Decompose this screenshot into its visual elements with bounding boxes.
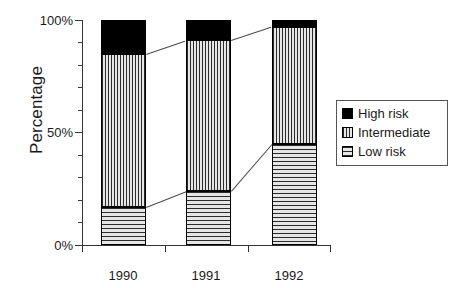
bar-1991-segment-intermediate bbox=[186, 40, 231, 191]
legend-item-high-risk: High risk bbox=[342, 104, 443, 123]
connector-intermediate-1991-1992 bbox=[231, 27, 271, 41]
x-axis-line bbox=[82, 245, 331, 246]
y-tick-label-100: 100% bbox=[40, 13, 73, 28]
y-tick-minor-70 bbox=[78, 87, 83, 88]
legend-label-intermediate: Intermediate bbox=[358, 126, 430, 139]
legend-item-intermediate: Intermediate bbox=[342, 123, 443, 142]
solid-black-swatch-icon bbox=[342, 108, 353, 119]
stacked-bar-chart-figure: Percentage 100% 50% 0% 1990 1991 1992 bbox=[0, 0, 455, 288]
bar-1990-segment-low-risk bbox=[101, 207, 146, 245]
x-tick-end bbox=[330, 245, 331, 252]
legend-label-low-risk: Low risk bbox=[358, 145, 406, 158]
chart-legend: High risk Intermediate Low risk bbox=[336, 100, 448, 166]
y-tick-minor-10 bbox=[78, 222, 83, 223]
y-tick-minor-60 bbox=[78, 110, 83, 111]
bar-1990-segment-intermediate bbox=[101, 54, 146, 207]
y-tick-minor-20 bbox=[78, 200, 83, 201]
y-tick-100 bbox=[75, 20, 83, 21]
bar-1991-segment-high-risk bbox=[186, 20, 231, 40]
bar-1991-segment-low-risk bbox=[186, 191, 231, 245]
plot-area: 100% 50% 0% 1990 1991 1992 bbox=[82, 20, 330, 245]
vertical-hatch-swatch-icon bbox=[342, 127, 353, 138]
y-axis-line bbox=[82, 20, 83, 246]
bar-1992-segment-intermediate bbox=[272, 27, 317, 144]
x-tick-sep-1 bbox=[165, 245, 166, 252]
y-tick-minor-30 bbox=[78, 177, 83, 178]
y-axis-title: Percentage bbox=[27, 25, 47, 195]
y-tick-minor-80 bbox=[78, 65, 83, 66]
x-tick-label-1990: 1990 bbox=[109, 268, 138, 283]
y-tick-minor-90 bbox=[78, 42, 83, 43]
bar-1992-segment-high-risk bbox=[272, 20, 317, 27]
y-tick-label-0: 0% bbox=[54, 238, 73, 253]
connector-low-risk-1990-1991 bbox=[146, 191, 186, 208]
connector-intermediate-1990-1991 bbox=[146, 40, 185, 54]
x-tick-start bbox=[82, 245, 83, 252]
bar-1990-segment-high-risk bbox=[101, 20, 146, 54]
x-tick-sep-2 bbox=[248, 245, 249, 252]
bar-1992-segment-low-risk bbox=[272, 144, 317, 245]
connector-low-risk-1991-1992 bbox=[231, 144, 273, 192]
horizontal-hatch-swatch-icon bbox=[342, 146, 353, 157]
x-tick-label-1992: 1992 bbox=[275, 268, 304, 283]
y-tick-50 bbox=[75, 132, 83, 133]
y-tick-minor-40 bbox=[78, 155, 83, 156]
x-tick-label-1991: 1991 bbox=[192, 268, 221, 283]
y-tick-label-50: 50% bbox=[47, 125, 73, 140]
legend-item-low-risk: Low risk bbox=[342, 142, 443, 161]
legend-label-high-risk: High risk bbox=[358, 107, 409, 120]
